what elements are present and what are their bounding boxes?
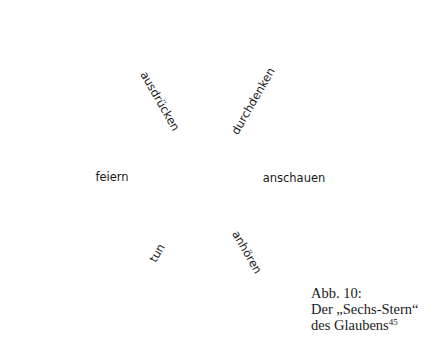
label-feiern: feiern xyxy=(95,170,128,184)
caption-subtitle-text: des Glaubens xyxy=(311,317,389,333)
footnote-marker[interactable]: 45 xyxy=(389,317,398,327)
label-anschauen: anschauen xyxy=(263,171,326,185)
caption-title: Der „Sechs-Stern“ xyxy=(311,301,419,317)
caption-figure-number: Abb. 10: xyxy=(311,285,419,301)
caption-subtitle: des Glaubens45 xyxy=(311,317,419,333)
figure-caption: Abb. 10: Der „Sechs-Stern“ des Glaubens4… xyxy=(311,285,419,333)
